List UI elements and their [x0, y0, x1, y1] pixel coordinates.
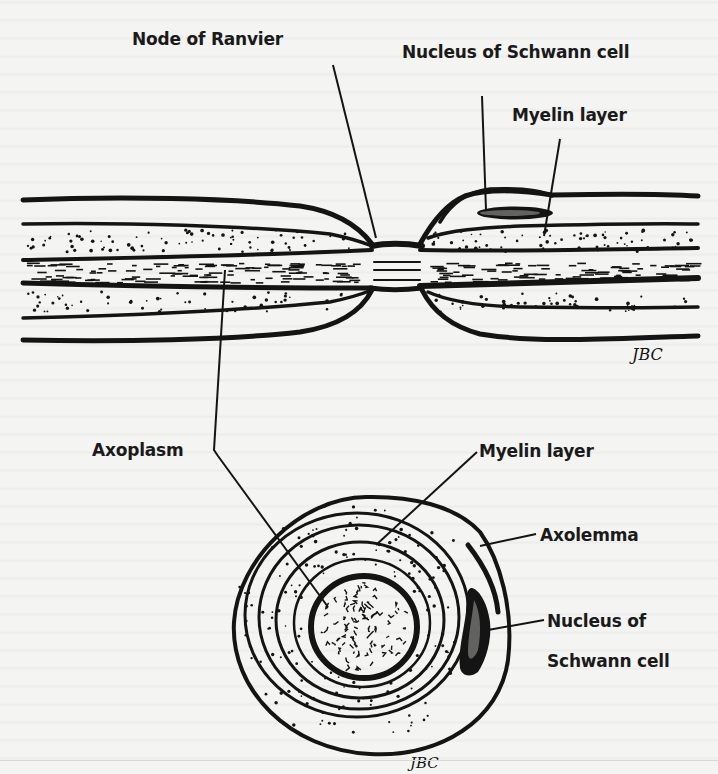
cross-stipple-dot [321, 720, 323, 722]
axoplasm-reticulum-mark [346, 665, 350, 671]
axoplasm-reticulum-mark [325, 607, 327, 609]
axoplasm-reticulum-mark [354, 644, 358, 648]
myelin-stipple-dot [46, 310, 48, 312]
myelin-stipple-dot [36, 295, 39, 298]
cross-stipple-dot [294, 590, 297, 593]
cross-stipple-dot [295, 662, 298, 665]
longitudinal-section: JBC [23, 189, 702, 364]
myelin-stipple-dot [230, 237, 232, 239]
myelin-stipple-dot [326, 308, 329, 311]
myelin-stipple-dot [500, 230, 504, 234]
node-of-ranvier-constriction [372, 244, 422, 246]
myelin-stipple-dot [465, 245, 468, 248]
myelin-stipple-dot [212, 234, 215, 237]
cross-stipple-dot [408, 714, 411, 717]
myelin-stipple-dot [80, 301, 82, 303]
myelin-stipple-dot [109, 248, 113, 252]
cross-stipple-dot [387, 550, 390, 553]
cross-stipple-dot [271, 616, 274, 619]
myelin-stipple-dot [178, 243, 180, 245]
axoplasm-reticulum-mark [353, 606, 355, 612]
myelin-stipple-dot [90, 230, 92, 232]
myelin-stipple-dot [36, 305, 39, 308]
axoplasm-reticulum-mark [321, 632, 322, 633]
myelin-stipple-dot [550, 302, 553, 305]
myelin-stipple-dot [203, 292, 206, 295]
cross-stipple-dot [284, 591, 287, 594]
myelin-stipple-dot [266, 310, 268, 312]
myelin-stipple-dot [231, 301, 233, 303]
cross-stipple-dot [447, 651, 449, 653]
myelin-stipple-dot [640, 295, 642, 297]
axoplasm-reticulum-mark [396, 602, 398, 606]
cross-stipple-dot [308, 533, 310, 535]
myelin-stipple-dot [602, 234, 605, 237]
myelin-stipple-dot [257, 237, 259, 239]
cross-stipple-dot [342, 553, 345, 556]
myelin-stipple-dot [451, 303, 454, 306]
myelin-stipple-dot [625, 310, 627, 312]
cross-stipple-dot [244, 592, 246, 594]
myelin-stipple-dot [301, 236, 304, 239]
axoplasm-texture-cross [321, 583, 408, 671]
axoplasm-reticulum-mark [332, 642, 335, 645]
cross-stipple-dot [394, 538, 397, 541]
myelin-stipple-dot [58, 297, 61, 300]
myelin-stipple-dot [271, 249, 274, 252]
cross-stipple-dot [435, 645, 437, 647]
myelin-stipple-dot [480, 295, 484, 299]
cross-stipple-dot [437, 566, 440, 569]
axoplasm-reticulum-mark [389, 650, 392, 653]
cross-stipple-dot [375, 549, 377, 551]
myelin-stipple-dot [545, 240, 549, 244]
cross-stipple-dot [396, 695, 399, 698]
myelin-stipple-dot [100, 240, 102, 242]
myelin-stipple-dot [460, 308, 462, 310]
cross-stipple-dot [271, 611, 273, 613]
myelin-stipple-dot [51, 302, 54, 305]
myelin-stipple-dot [555, 302, 559, 306]
cross-stipple-dot [388, 721, 390, 723]
myelin-stipple-dot [185, 242, 187, 244]
cross-stipple-dot [452, 539, 455, 542]
cross-stipple-dot [399, 559, 401, 561]
myelin-stipple-dot [671, 233, 674, 236]
myelin-stipple-dot [200, 229, 204, 233]
myelin-stipple-dot [66, 250, 69, 253]
cross-stipple-dot [286, 562, 289, 565]
cross-stipple-dot [291, 650, 294, 653]
myelin-stipple-dot [450, 241, 453, 244]
myelin-stipple-dot [517, 302, 520, 305]
myelin-stipple-dot [523, 301, 526, 304]
myelin-stipple-dot [202, 240, 204, 242]
myelin-stipple-dot [573, 234, 575, 236]
leader-axolemma [480, 534, 536, 546]
cross-stipple-dot [343, 535, 345, 537]
axolemma-upper-right [420, 248, 698, 251]
cross-stipple-dot [352, 505, 355, 508]
myelin-stipple-dot [475, 240, 478, 243]
cross-stipple-dot [335, 550, 338, 553]
axoplasm-reticulum-mark [357, 667, 361, 670]
axoplasm-reticulum-mark [325, 613, 328, 616]
myelin-stipple-dot [595, 297, 599, 301]
cross-stipple-dot [374, 509, 377, 512]
myelin-stipple-dot [69, 239, 72, 242]
myelin-stipple-dot [471, 234, 473, 236]
label-nucleus-of-schwann-cell-top: Nucleus of Schwann cell [402, 42, 629, 62]
myelin-stipple-dot [683, 298, 685, 300]
cross-stipple-dot [250, 604, 253, 607]
myelin-stipple-dot [101, 248, 104, 251]
myelin-stipple-dot [555, 293, 557, 295]
myelin-stipple-dot [136, 236, 138, 238]
axoplasm-reticulum-mark [324, 627, 328, 633]
myelin-stipple-dot [521, 293, 524, 296]
myelin-top-left-boundary [23, 223, 372, 246]
myelin-stipple-dot [221, 233, 225, 237]
myelin-stipple-dot [57, 296, 59, 298]
axoplasm-reticulum-mark [382, 645, 385, 647]
myelin-stipple-dot [148, 232, 150, 234]
cross-stipple-dot [423, 719, 426, 722]
cross-stipple-dot [299, 584, 301, 586]
leader-myelin-layer-top [544, 139, 560, 236]
